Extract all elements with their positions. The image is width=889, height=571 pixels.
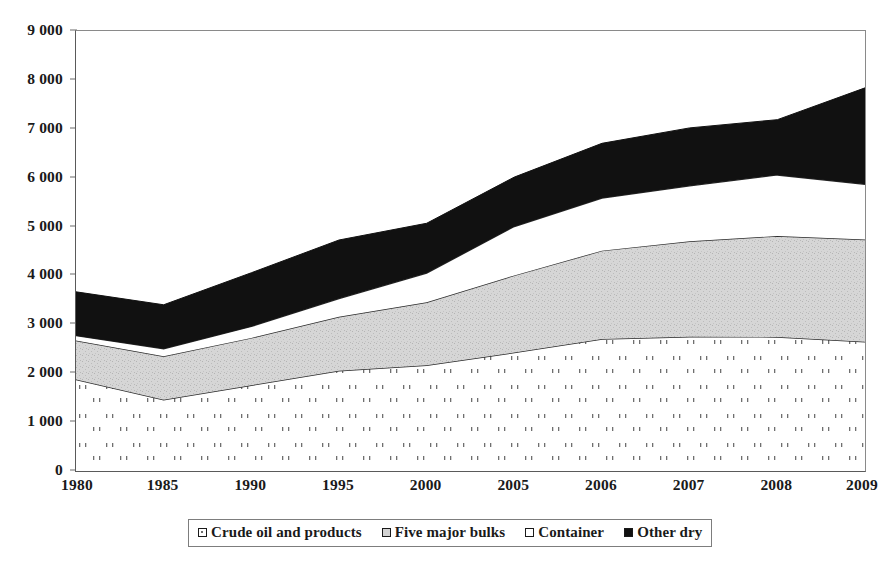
y-axis-tick-label: 5 000 — [3, 217, 63, 235]
y-axis-tick-label: 6 000 — [3, 168, 63, 186]
legend-item-label: Five major bulks — [395, 524, 506, 541]
x-axis-tick-label: 2006 — [585, 476, 617, 494]
chart-legend: Crude oil and productsFive major bulksCo… — [188, 519, 712, 547]
x-axis-tick-label: 1990 — [234, 476, 266, 494]
x-axis-tick-label: 1995 — [322, 476, 354, 494]
x-axis-tick-label: 1980 — [61, 476, 93, 494]
y-axis-tick-label: 4 000 — [3, 265, 63, 283]
legend-item[interactable]: Container — [525, 524, 604, 541]
x-axis-tick-label: 1985 — [147, 476, 179, 494]
legend-item-label: Other dry — [637, 524, 702, 541]
legend-swatch-icon — [525, 528, 534, 537]
x-axis-tick-label: 2007 — [673, 476, 705, 494]
legend-item-label: Crude oil and products — [211, 524, 362, 541]
y-axis-tick-label: 8 000 — [3, 70, 63, 88]
plot-area — [75, 30, 866, 472]
x-axis-tick-label: 2000 — [410, 476, 442, 494]
legend-swatch-icon — [624, 528, 633, 537]
x-axis-tick-label: 2005 — [497, 476, 529, 494]
chart-container: 9 0008 0007 0006 0005 0004 0003 0002 000… — [0, 0, 889, 571]
y-axis-tick-label: 2 000 — [3, 363, 63, 381]
x-axis: 1980198519901995200020052006200720082009 — [0, 476, 889, 506]
legend-item-label: Container — [538, 524, 604, 541]
legend-item[interactable]: Other dry — [624, 524, 702, 541]
y-axis-tick-label: 1 000 — [3, 412, 63, 430]
y-axis-tick-label: 3 000 — [3, 314, 63, 332]
stacked-area-plot — [76, 31, 865, 471]
y-axis-tick-label: 7 000 — [3, 119, 63, 137]
x-axis-tick-label: 2009 — [846, 476, 878, 494]
legend-swatch-icon — [382, 528, 391, 537]
legend-swatch-icon — [198, 528, 207, 537]
legend-item[interactable]: Five major bulks — [382, 524, 506, 541]
y-axis: 9 0008 0007 0006 0005 0004 0003 0002 000… — [0, 0, 75, 480]
legend-item[interactable]: Crude oil and products — [198, 524, 362, 541]
y-axis-tick-label: 9 000 — [3, 21, 63, 39]
x-axis-tick-label: 2008 — [760, 476, 792, 494]
